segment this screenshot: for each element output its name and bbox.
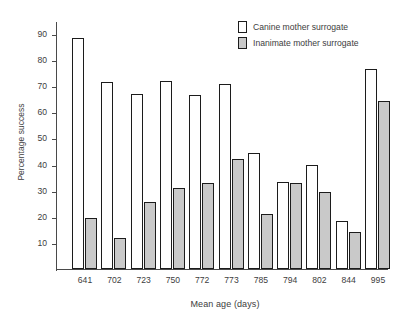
bar-groups <box>57 21 388 269</box>
bar-group <box>277 21 302 269</box>
bar-inanimate-844 <box>349 232 361 269</box>
bar-group <box>72 21 97 269</box>
bar-group <box>248 21 273 269</box>
chart-legend: Canine mother surrogate Inanimate mother… <box>238 19 398 51</box>
bar-group <box>219 21 244 269</box>
bar-canine-844 <box>336 221 348 269</box>
bar-inanimate-750 <box>173 188 185 269</box>
y-axis-title: Percentage success <box>16 77 26 207</box>
y-axis-tick-label: 20 <box>37 212 47 222</box>
x-axis-title: Mean age (days) <box>60 299 390 309</box>
bar-group <box>101 21 126 269</box>
bar-canine-750 <box>160 81 172 269</box>
bar-inanimate-802 <box>319 192 331 269</box>
x-axis-tick-label: 995 <box>358 275 398 285</box>
bar-inanimate-995 <box>378 101 390 269</box>
bar-canine-794 <box>277 182 289 269</box>
bar-group <box>160 21 185 269</box>
y-axis-tick-label: 50 <box>37 133 47 143</box>
y-axis-tick-label: 70 <box>37 81 47 91</box>
bar-inanimate-723 <box>144 202 156 269</box>
legend-label-canine: Canine mother surrogate <box>253 22 348 32</box>
bar-canine-802 <box>306 165 318 269</box>
bar-inanimate-772 <box>202 183 214 269</box>
plot-area: 102030405060708090 641702723750772773785… <box>56 22 388 270</box>
bar-canine-995 <box>365 69 377 269</box>
bar-inanimate-794 <box>290 183 302 269</box>
y-axis-tick-label: 10 <box>37 238 47 248</box>
bar-inanimate-702 <box>114 238 126 269</box>
y-axis-tick-label: 90 <box>37 29 47 39</box>
bar-canine-785 <box>248 153 260 269</box>
y-axis-tick-label: 80 <box>37 55 47 65</box>
bar-inanimate-785 <box>261 214 273 269</box>
bar-canine-773 <box>219 84 231 269</box>
bar-group <box>189 21 214 269</box>
bar-group <box>131 21 156 269</box>
legend-label-inanimate: Inanimate mother surrogate <box>253 38 359 48</box>
bar-chart: Percentage success Mean age (days) 10203… <box>0 0 401 322</box>
gray-bar-swatch-icon <box>238 37 247 49</box>
white-bar-swatch-icon <box>238 21 247 33</box>
bar-group <box>365 21 390 269</box>
x-axis-line <box>56 269 388 270</box>
bar-canine-641 <box>72 38 84 269</box>
legend-entry-canine: Canine mother surrogate <box>238 19 398 34</box>
y-axis-tick-label: 40 <box>37 160 47 170</box>
bar-canine-702 <box>101 82 113 269</box>
bar-inanimate-773 <box>232 159 244 269</box>
y-axis-tick-label: 30 <box>37 186 47 196</box>
bar-inanimate-641 <box>85 218 97 269</box>
bar-canine-772 <box>189 95 201 269</box>
bar-group <box>306 21 331 269</box>
legend-entry-inanimate: Inanimate mother surrogate <box>238 35 398 50</box>
bar-group <box>336 21 361 269</box>
bar-canine-723 <box>131 94 143 269</box>
y-axis-tick-label: 60 <box>37 107 47 117</box>
